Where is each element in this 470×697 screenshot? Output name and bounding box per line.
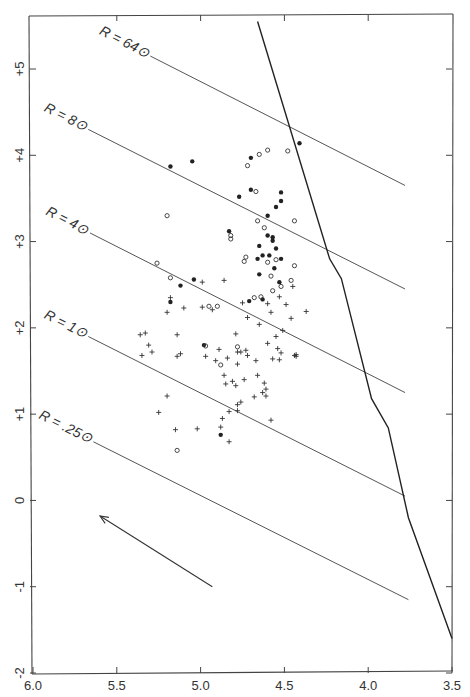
y-tick-label: +5 — [12, 62, 27, 77]
filled-circle-point — [168, 300, 172, 304]
filled-circle-point — [277, 280, 281, 284]
filled-circle-point — [270, 235, 274, 239]
filled-circle-point — [272, 266, 276, 270]
filled-circle-point — [237, 195, 241, 199]
y-tick-label: +2 — [12, 320, 27, 335]
filled-circle-point — [192, 277, 196, 281]
y-tick-label: 0 — [12, 497, 27, 504]
filled-circle-point — [257, 272, 261, 276]
filled-circle-point — [247, 299, 251, 303]
filled-circle-point — [279, 257, 283, 261]
filled-circle-point — [190, 159, 194, 163]
x-tick-label: 4.0 — [359, 678, 377, 693]
filled-circle-point — [274, 205, 278, 209]
x-tick-label: 4.5 — [275, 678, 293, 693]
filled-circle-point — [274, 246, 278, 250]
filled-circle-point — [255, 257, 259, 261]
y-tick-label: +3 — [12, 234, 27, 249]
y-tick-label: +1 — [12, 407, 27, 422]
filled-circle-point — [279, 190, 283, 194]
hr-diagram-figure: 6.05.55.04.54.03.5 +5+4+3+2+10-1-2 R = 6… — [0, 0, 470, 697]
filled-circle-point — [168, 164, 172, 168]
y-tick-label: -1 — [12, 581, 27, 593]
filled-circle-point — [267, 253, 271, 257]
y-tick-label: +4 — [12, 148, 27, 163]
filled-circle-point — [178, 283, 182, 287]
filled-circle-point — [249, 188, 253, 192]
filled-circle-point — [227, 229, 231, 233]
y-tick-label: -2 — [12, 667, 27, 679]
filled-circle-point — [249, 156, 253, 160]
filled-circle-point — [260, 253, 264, 257]
x-tick-label: 6.0 — [24, 678, 42, 693]
filled-circle-point — [265, 233, 269, 237]
x-tick-label: 3.5 — [443, 678, 461, 693]
x-tick-label: 5.0 — [192, 678, 210, 693]
x-tick-label: 5.5 — [108, 678, 126, 693]
filled-circle-point — [279, 199, 283, 203]
filled-circle-point — [297, 141, 301, 145]
filled-circle-point — [257, 244, 261, 248]
filled-circle-point — [219, 433, 223, 437]
filled-circle-point — [265, 213, 269, 217]
